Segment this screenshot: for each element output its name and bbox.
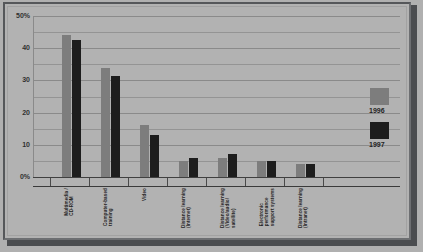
bar-1996: [257, 161, 266, 177]
bar-series-group: [33, 16, 400, 177]
x-axis-label: Multimedia /CD-ROM: [64, 188, 75, 216]
legend-label: 1997: [369, 141, 402, 148]
x-axis-label: Computer-basedtraining: [103, 188, 114, 226]
bar-1997: [111, 76, 120, 177]
bar-1996: [296, 164, 305, 177]
chart-legend: 19961997: [368, 88, 402, 156]
bar-1997: [228, 154, 237, 177]
legend-label: 1996: [369, 107, 402, 114]
chart-container: 0%1020304050% Multimedia /CD-ROMComputer…: [0, 0, 423, 252]
x-axis-label: Distance learning(Intranet): [298, 188, 309, 228]
x-axis-label: Electronicperformancesupport systems: [259, 188, 275, 226]
x-axis-tick: [323, 178, 324, 186]
legend-swatch: [370, 88, 389, 105]
bar-1997: [189, 158, 198, 177]
x-axis-tick: [167, 178, 168, 186]
x-axis-tick: [206, 178, 207, 186]
x-axis-label: Video: [142, 188, 147, 201]
bar-1997: [306, 164, 315, 177]
x-axis-tick: [284, 178, 285, 186]
legend-entry-1997[interactable]: 1997: [368, 122, 402, 148]
legend-entry-1996[interactable]: 1996: [368, 88, 402, 114]
bar-1996: [140, 125, 149, 177]
y-axis-tick-label: 30: [0, 76, 30, 84]
y-axis-tick-label: 50%: [0, 12, 30, 20]
frame-shadow-right: [411, 5, 417, 245]
y-axis-tick-label: 20: [0, 109, 30, 117]
x-axis-line-secondary: [33, 186, 400, 187]
y-axis-tick-label: 10: [0, 141, 30, 149]
x-axis-tick: [128, 178, 129, 186]
x-axis-tick: [245, 178, 246, 186]
y-axis-tick-label: 0%: [0, 173, 30, 181]
bar-1997: [72, 40, 81, 177]
x-axis-label: Distance learning(Internet): [181, 188, 192, 228]
bar-1996: [179, 161, 188, 177]
x-axis-labels: Multimedia /CD-ROMComputer-basedtraining…: [33, 188, 400, 246]
bar-1996: [62, 35, 71, 177]
legend-swatch: [370, 122, 389, 139]
y-axis: 0%1020304050%: [0, 16, 30, 178]
y-axis-tick-label: 40: [0, 44, 30, 52]
x-axis-label: Distance learning(Video/audio/satellite): [220, 188, 236, 228]
x-axis-tick: [89, 178, 90, 186]
bar-1997: [267, 161, 276, 177]
x-axis-tick: [50, 178, 51, 186]
bar-1997: [150, 135, 159, 177]
bar-1996: [218, 158, 227, 177]
bar-1996: [101, 68, 110, 177]
